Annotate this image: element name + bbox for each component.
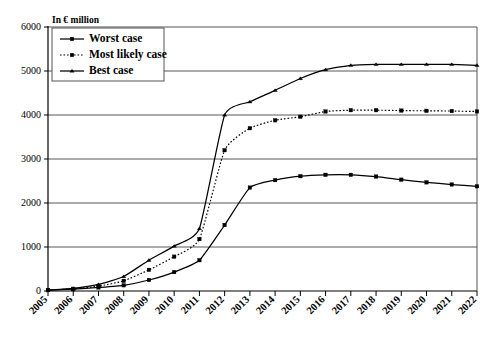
data-point-marker	[248, 186, 252, 190]
legend-label-2: Best case	[89, 64, 133, 76]
chart-legend: Worst caseMost likely caseBest case	[52, 28, 167, 81]
x-axis-tick-label: 2010	[153, 294, 176, 317]
data-point-marker	[425, 109, 429, 113]
data-point-marker	[172, 270, 176, 274]
series-line-0	[48, 175, 477, 290]
data-point-marker	[299, 174, 303, 178]
data-point-marker	[475, 184, 479, 188]
data-point-marker	[248, 126, 252, 130]
data-point-marker	[374, 175, 378, 179]
series-worst-case	[46, 173, 479, 292]
legend-marker-0	[70, 37, 74, 41]
data-point-marker	[374, 108, 378, 112]
x-axis-tick-label: 2022	[456, 294, 479, 317]
x-axis-tick-label: 2021	[431, 294, 454, 317]
series-line-1	[48, 110, 477, 290]
y-axis-tick-label: 2000	[21, 197, 41, 208]
line-chart: 0100020003000400050006000200520062007200…	[0, 0, 496, 342]
data-point-marker	[223, 223, 227, 227]
x-axis-tick-label: 2018	[355, 294, 378, 317]
x-axis-tick-label: 2006	[52, 294, 75, 317]
legend-label-1: Most likely case	[89, 48, 167, 61]
y-axis-tick-label: 1000	[21, 241, 41, 252]
x-axis-tick-label: 2014	[254, 293, 277, 316]
x-axis-tick-label: 2019	[380, 294, 403, 317]
y-axis-tick-label: 4000	[21, 109, 41, 120]
x-axis-tick-label: 2017	[330, 294, 353, 317]
data-point-marker	[450, 183, 454, 187]
x-axis-tick-label: 2012	[203, 294, 226, 317]
y-axis-tick-label: 3000	[21, 153, 41, 164]
data-point-marker	[273, 178, 277, 182]
y-axis-title: In € million	[52, 15, 100, 25]
data-point-marker	[197, 227, 201, 230]
x-axis-tick-label: 2009	[128, 294, 151, 317]
data-point-marker	[450, 109, 454, 113]
data-point-marker	[324, 110, 328, 114]
data-point-marker	[172, 255, 176, 259]
data-point-marker	[198, 237, 202, 241]
chart-container: 0100020003000400050006000200520062007200…	[0, 0, 496, 342]
data-point-marker	[122, 283, 126, 287]
x-axis-tick-label: 2005	[27, 294, 50, 317]
data-point-marker	[299, 115, 303, 119]
x-axis-tick-label: 2013	[229, 294, 252, 317]
x-axis-tick-label: 2016	[304, 294, 327, 317]
data-point-marker	[399, 178, 403, 182]
y-axis-tick-label: 5000	[21, 65, 41, 76]
x-axis-tick-label: 2007	[77, 294, 100, 317]
data-point-marker	[273, 118, 277, 122]
data-point-marker	[223, 148, 227, 152]
data-point-marker	[147, 268, 151, 272]
x-axis-tick-label: 2011	[179, 294, 201, 316]
x-axis-tick-label: 2015	[279, 294, 302, 317]
x-axis-tick-label: 2020	[405, 294, 428, 317]
data-point-marker	[475, 110, 479, 114]
data-point-marker	[425, 181, 429, 185]
data-point-marker	[399, 109, 403, 113]
data-point-marker	[324, 173, 328, 177]
data-point-marker	[349, 108, 353, 112]
series-line-2	[48, 64, 477, 290]
series-best-case	[46, 63, 479, 292]
data-point-marker	[198, 258, 202, 262]
data-point-marker	[147, 278, 151, 282]
data-point-marker	[349, 173, 353, 177]
data-point-marker	[122, 279, 126, 283]
legend-label-0: Worst case	[89, 32, 142, 44]
x-axis-tick-label: 2008	[102, 294, 125, 317]
legend-marker-1	[70, 53, 74, 57]
y-axis-tick-label: 6000	[21, 21, 41, 32]
series-most-likely-case	[46, 108, 479, 292]
